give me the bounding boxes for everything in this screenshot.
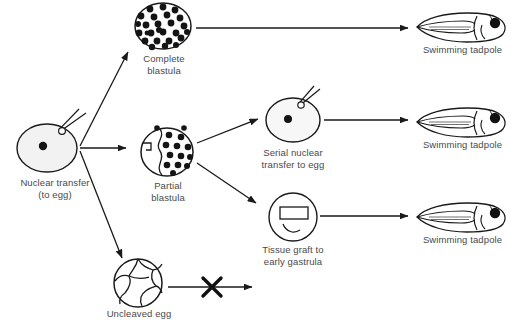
label-tissue-graft: Tissue graft to early gastrula	[240, 244, 346, 267]
label-tadpole-top: Swimming tadpole	[405, 44, 520, 56]
egg-branch-arrows	[80, 52, 128, 258]
label-partial-blastula: Partial blastula	[122, 180, 214, 203]
nuclear-transfer-diagram: Nuclear transfer (to egg) Complete blast…	[0, 0, 520, 327]
label-tadpole-middle: Swimming tadpole	[405, 139, 520, 151]
label-tadpole-bottom: Swimming tadpole	[405, 234, 520, 246]
label-nuclear-transfer: Nuclear transfer (to egg)	[0, 177, 110, 200]
donor-egg-cell	[17, 109, 86, 172]
label-complete-blastula: Complete blastula	[118, 53, 210, 76]
uncleaved-egg-cell	[114, 259, 162, 307]
serial-transfer-cell	[266, 86, 320, 142]
uncleaved-blocked-arrow	[168, 278, 252, 296]
graft-tissue-rect	[280, 207, 308, 219]
tadpole-bottom-figure	[417, 203, 505, 232]
tadpole-middle-figure	[417, 108, 505, 137]
complete-blastula-cell	[135, 3, 191, 50]
label-serial-transfer: Serial nuclear transfer to egg	[240, 147, 346, 170]
donor-egg-nucleus	[39, 142, 47, 150]
donor-egg-pipette-icon	[59, 109, 86, 134]
serial-transfer-nucleus	[284, 115, 292, 123]
tissue-graft-cell	[269, 193, 317, 241]
partial-blastula-cell	[141, 125, 193, 176]
label-uncleaved-egg: Uncleaved egg	[88, 308, 190, 320]
tadpole-top-figure	[417, 13, 505, 42]
